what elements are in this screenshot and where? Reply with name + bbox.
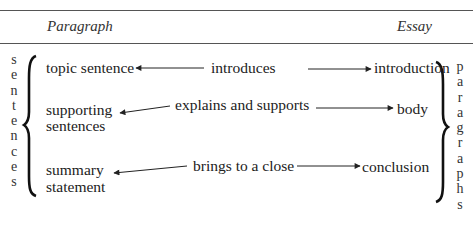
right-brace-icon (436, 62, 448, 202)
arrow-left-3 (114, 166, 187, 173)
relation-explains-and-supports: explains and supports (175, 96, 309, 113)
left-brace-icon (24, 56, 36, 196)
paragraph-sentences: sentences (46, 117, 105, 134)
relation-introduces: introduces (211, 59, 276, 76)
paragraph-supporting: supporting (46, 101, 112, 118)
arrow-left-2 (120, 106, 170, 113)
essay-body: body (397, 100, 428, 117)
essay-introduction: introduction (374, 59, 450, 76)
paragraph-topic-sentence: topic sentence (46, 59, 134, 76)
essay-conclusion: conclusion (362, 158, 429, 175)
relation-brings-to-a-close: brings to a close (193, 157, 294, 174)
paragraph-statement: statement (46, 178, 105, 195)
paragraph-summary: summary (46, 161, 104, 178)
